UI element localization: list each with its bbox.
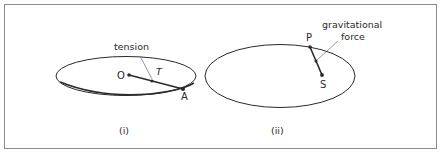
label-tension: tension	[114, 41, 149, 52]
tension-leader-line	[140, 56, 152, 79]
panel-i: tension O T A (i)	[56, 41, 196, 136]
label-p: P	[306, 32, 312, 43]
point-s-dot	[320, 73, 324, 77]
orbit-bottom-emphasis	[60, 82, 194, 95]
label-s: S	[320, 79, 326, 90]
gravity-leader-line	[317, 41, 338, 60]
point-o-dot	[127, 73, 131, 77]
tension-arrow-marker	[151, 80, 154, 83]
string-line-oa	[129, 75, 183, 89]
caption-ii: (ii)	[271, 125, 284, 136]
label-a: A	[181, 91, 188, 102]
physics-figure: tension O T A (i) gravitational force P …	[0, 0, 443, 154]
label-force: force	[341, 31, 365, 42]
label-t: T	[156, 66, 163, 77]
panel-ii: gravitational force P S (ii)	[205, 19, 382, 136]
elliptical-orbit-ellipse	[205, 45, 355, 108]
label-gravitational: gravitational	[322, 19, 382, 30]
label-o: O	[117, 70, 125, 81]
caption-i: (i)	[119, 125, 129, 136]
point-p-dot	[308, 45, 312, 49]
